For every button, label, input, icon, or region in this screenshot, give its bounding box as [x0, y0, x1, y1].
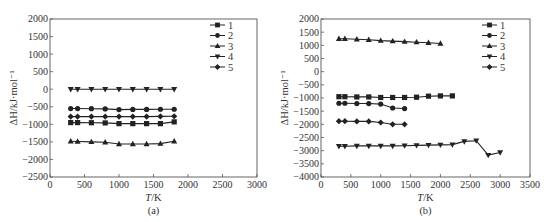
- series-1: [336, 93, 455, 100]
- triangle-up-marker: [171, 138, 177, 143]
- square-marker: [144, 121, 149, 126]
- x-tick-label: 1500: [401, 179, 421, 190]
- circle-marker: [103, 106, 108, 111]
- circle-marker: [215, 33, 220, 38]
- circle-marker: [68, 106, 73, 111]
- legend-label: 3: [500, 41, 505, 52]
- y-tick-label: 500: [33, 66, 48, 77]
- diamond-marker: [68, 114, 74, 120]
- legend-label: 3: [228, 41, 233, 52]
- x-tick-label: 500: [343, 179, 358, 190]
- legend-item-1: 1: [482, 20, 505, 31]
- diamond-marker: [144, 114, 150, 120]
- x-tick-label: 3500: [520, 179, 540, 190]
- square-marker: [89, 120, 94, 125]
- legend-label: 4: [500, 51, 506, 62]
- plot-frame: [50, 19, 257, 177]
- legend-label: 2: [228, 30, 233, 41]
- square-marker: [366, 94, 371, 99]
- square-marker: [158, 121, 163, 126]
- circle-marker: [172, 107, 177, 112]
- legend: 12345: [482, 20, 506, 73]
- y-tick-label: −1500: [293, 106, 319, 117]
- diamond-marker: [354, 118, 360, 124]
- series-3: [336, 36, 444, 46]
- triangle-up-marker: [68, 138, 74, 143]
- square-marker: [68, 120, 73, 125]
- x-tick-label: 2000: [430, 179, 450, 190]
- diamond-marker: [116, 114, 122, 120]
- square-marker: [378, 95, 383, 100]
- legend-item-5: 5: [482, 62, 505, 73]
- square-marker: [438, 93, 443, 98]
- series-3: [68, 138, 178, 146]
- x-axis-label: T/K: [145, 192, 162, 203]
- y-tick-label: 1000: [299, 40, 319, 51]
- y-tick-label: −1500: [22, 136, 48, 147]
- x-tick-label: 3000: [490, 179, 510, 190]
- y-axis-label: ΔH/kJ·mol⁻¹: [8, 70, 19, 125]
- legend-item-2: 2: [482, 30, 505, 41]
- x-tick-label: 0: [48, 179, 53, 190]
- x-tick-label: 0: [319, 179, 324, 190]
- y-tick-label: 2000: [299, 13, 319, 24]
- y-tick-label: −1000: [293, 92, 319, 103]
- circle-marker: [354, 101, 359, 106]
- circle-marker: [75, 106, 80, 111]
- square-marker: [342, 94, 347, 99]
- legend-item-4: 4: [210, 51, 234, 62]
- y-tick-label: −2500: [22, 171, 48, 182]
- square-marker: [390, 95, 395, 100]
- series-2: [68, 106, 177, 112]
- square-marker: [426, 94, 431, 99]
- diamond-marker: [171, 113, 177, 119]
- legend-label: 5: [228, 62, 233, 73]
- diamond-marker: [130, 114, 136, 120]
- panel-caption: (b): [419, 205, 432, 217]
- x-tick-label: 2000: [178, 179, 198, 190]
- circle-marker: [116, 107, 121, 112]
- y-tick-label: 500: [304, 53, 319, 64]
- y-tick-label: 1500: [28, 31, 48, 42]
- circle-marker: [378, 101, 383, 106]
- diamond-marker: [366, 118, 372, 124]
- diamond-marker: [102, 114, 108, 120]
- x-tick-label: 3000: [247, 179, 267, 190]
- legend: 12345: [210, 20, 234, 73]
- legend-label: 4: [228, 51, 234, 62]
- square-marker: [354, 94, 359, 99]
- diamond-marker: [215, 64, 221, 70]
- x-tick-label: 500: [77, 179, 92, 190]
- diamond-marker: [390, 121, 396, 127]
- x-tick-label: 1500: [144, 179, 164, 190]
- x-axis: 050010001500200025003000: [48, 174, 268, 190]
- series-4: [68, 87, 178, 92]
- y-tick-label: −3500: [293, 158, 319, 169]
- circle-marker: [487, 33, 492, 38]
- legend-item-1: 1: [210, 20, 233, 31]
- diamond-marker: [75, 114, 81, 120]
- series-2: [336, 101, 407, 111]
- legend-item-3: 3: [210, 41, 233, 52]
- circle-marker: [158, 107, 163, 112]
- figure-canvas: 2000150010005000−500−1000−1500−2000−2500…: [0, 0, 544, 222]
- y-tick-label: −2500: [293, 132, 319, 143]
- circle-marker: [130, 107, 135, 112]
- y-tick-label: 1000: [28, 49, 48, 60]
- x-axis-label: T/K: [417, 192, 434, 203]
- square-marker: [75, 120, 80, 125]
- diamond-marker: [88, 114, 94, 120]
- panel-caption: (a): [148, 205, 160, 217]
- y-tick-label: −1000: [22, 119, 48, 130]
- y-axis: 2000150010005000−500−1000−1500−2000−2500: [22, 13, 53, 182]
- legend-item-2: 2: [210, 30, 233, 41]
- legend-label: 5: [500, 62, 505, 73]
- diamond-marker: [402, 121, 408, 127]
- x-tick-label: 1000: [371, 179, 391, 190]
- y-tick-label: 1500: [299, 27, 319, 38]
- x-tick-label: 2500: [213, 179, 233, 190]
- square-marker: [103, 120, 108, 125]
- diamond-marker: [378, 119, 384, 125]
- diamond-marker: [487, 64, 493, 70]
- square-marker: [130, 121, 135, 126]
